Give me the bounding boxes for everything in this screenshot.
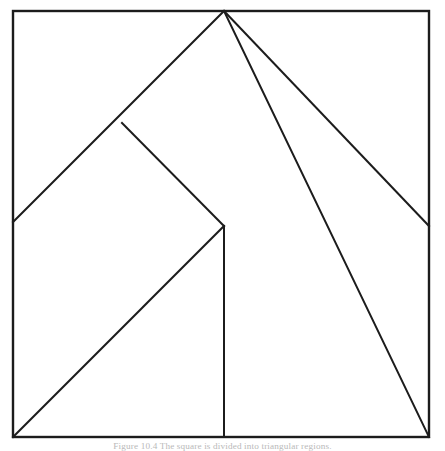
figure-caption: Figure 10.4 The square is divided into t… [0,441,445,451]
segment-apex-to-left-edge [13,11,224,222]
segment-junction-to-bottom-left-corner [13,226,224,437]
segment-apex-to-bottom-right-corner [224,11,429,437]
figure-container: Figure 10.4 The square is divided into t… [0,0,445,451]
geometric-figure-svg [0,0,445,451]
segment-apex-to-right-edge [224,11,429,226]
segment-branch-to-junction [122,123,224,226]
